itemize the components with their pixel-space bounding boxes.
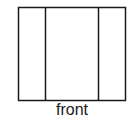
front-view-diagram: front — [0, 0, 131, 126]
outer-outline — [19, 8, 126, 101]
view-label: front — [0, 101, 131, 119]
